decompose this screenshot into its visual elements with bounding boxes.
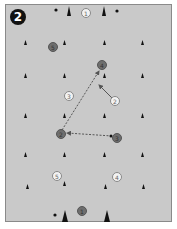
step-number-badge: 2 bbox=[10, 9, 26, 25]
light-player-4: 4 bbox=[112, 172, 122, 182]
light-player-2: 2 bbox=[110, 96, 120, 106]
light-player-3: 3 bbox=[64, 91, 74, 101]
goal-cone-icon bbox=[102, 6, 106, 16]
cone-grid bbox=[24, 40, 145, 189]
dark-player-4: 4 bbox=[97, 60, 107, 70]
dark-player-5: 5 bbox=[48, 42, 58, 52]
dark-player-3: 3 bbox=[112, 133, 122, 143]
ball-icon bbox=[115, 9, 118, 12]
light-player-5: 5 bbox=[52, 171, 62, 181]
goal-cone-icon bbox=[104, 210, 110, 222]
ball-icon bbox=[54, 8, 57, 11]
dark-player-2: 2 bbox=[56, 129, 66, 139]
goal-cone-icon bbox=[67, 6, 71, 16]
goal-cone-icon bbox=[62, 210, 68, 222]
light-player-1: 1 bbox=[81, 8, 91, 18]
pass-arrow-3-to-2 bbox=[67, 133, 112, 136]
run-arrow-light-2 bbox=[99, 85, 112, 98]
dark-player-1: 1 bbox=[77, 206, 87, 216]
drill-diagram bbox=[0, 0, 177, 229]
ball-icon bbox=[53, 213, 56, 216]
